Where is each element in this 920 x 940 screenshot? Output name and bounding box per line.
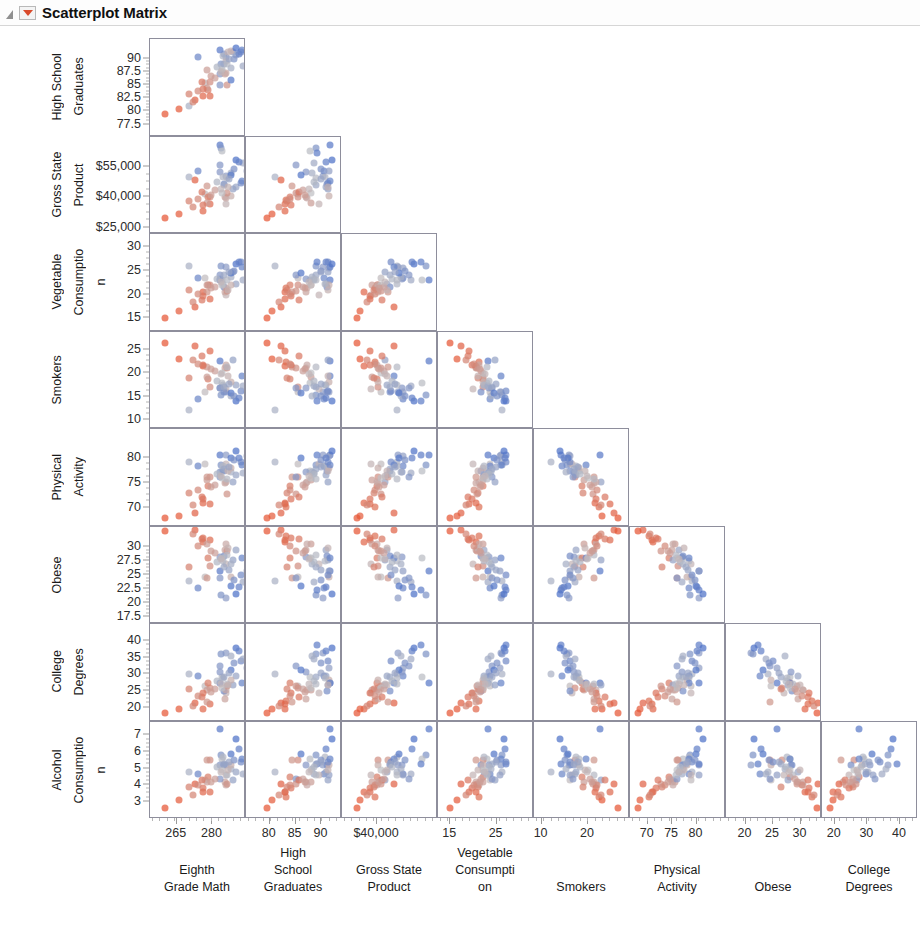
- scatter-cell-alcohol_consumption-vs-gross_state_product[interactable]: [341, 721, 437, 819]
- data-point[interactable]: [418, 397, 425, 404]
- data-point[interactable]: [755, 760, 762, 767]
- data-point[interactable]: [426, 451, 433, 458]
- data-point[interactable]: [272, 671, 279, 678]
- scatter-cell-physical_activity-vs-high_school_graduates[interactable]: [245, 428, 341, 526]
- data-point[interactable]: [185, 407, 192, 414]
- data-point[interactable]: [323, 454, 330, 461]
- data-point[interactable]: [492, 670, 499, 677]
- data-point[interactable]: [501, 583, 508, 590]
- data-point[interactable]: [208, 72, 215, 79]
- data-point[interactable]: [301, 484, 308, 491]
- data-point[interactable]: [563, 592, 570, 599]
- data-point[interactable]: [272, 768, 279, 775]
- data-point[interactable]: [447, 527, 454, 534]
- data-point[interactable]: [367, 460, 374, 467]
- scatter-cell-smokers-vs-vegetable_consumption[interactable]: [437, 331, 533, 429]
- data-point[interactable]: [217, 650, 224, 657]
- data-point[interactable]: [185, 577, 192, 584]
- data-point[interactable]: [149, 533, 150, 540]
- data-point[interactable]: [750, 752, 757, 759]
- data-point[interactable]: [484, 725, 491, 732]
- data-point[interactable]: [580, 489, 587, 496]
- data-point[interactable]: [278, 177, 285, 184]
- data-point[interactable]: [696, 725, 703, 732]
- data-point[interactable]: [806, 690, 813, 697]
- data-point[interactable]: [218, 68, 225, 75]
- data-point[interactable]: [594, 693, 601, 700]
- data-point[interactable]: [492, 356, 499, 363]
- data-point[interactable]: [422, 650, 429, 657]
- data-point[interactable]: [311, 578, 318, 585]
- data-point[interactable]: [328, 591, 335, 598]
- data-point[interactable]: [230, 576, 237, 583]
- data-point[interactable]: [272, 459, 279, 466]
- data-point[interactable]: [305, 186, 312, 193]
- data-point[interactable]: [598, 702, 605, 709]
- data-point[interactable]: [691, 660, 698, 667]
- data-point[interactable]: [195, 782, 202, 789]
- data-point[interactable]: [199, 189, 206, 196]
- data-point[interactable]: [757, 672, 764, 679]
- data-point[interactable]: [482, 371, 489, 378]
- data-point[interactable]: [493, 660, 500, 667]
- data-point[interactable]: [476, 548, 483, 555]
- data-point[interactable]: [590, 575, 597, 582]
- data-point[interactable]: [767, 775, 774, 782]
- data-point[interactable]: [890, 735, 897, 742]
- data-point[interactable]: [195, 693, 202, 700]
- data-point[interactable]: [388, 658, 395, 665]
- data-point[interactable]: [402, 660, 409, 667]
- data-point[interactable]: [500, 735, 507, 742]
- data-point[interactable]: [379, 352, 386, 359]
- data-point[interactable]: [318, 176, 325, 183]
- data-point[interactable]: [759, 666, 766, 673]
- data-point[interactable]: [426, 357, 433, 364]
- data-point[interactable]: [149, 196, 150, 203]
- data-point[interactable]: [463, 792, 470, 799]
- data-point[interactable]: [574, 463, 581, 470]
- red-dropdown-triangle-icon[interactable]: [19, 6, 36, 20]
- data-point[interactable]: [235, 745, 242, 752]
- data-point[interactable]: [175, 705, 182, 712]
- data-point[interactable]: [680, 688, 687, 695]
- data-point[interactable]: [297, 582, 304, 589]
- data-point[interactable]: [596, 725, 603, 732]
- data-point[interactable]: [295, 694, 302, 701]
- data-point[interactable]: [286, 290, 293, 297]
- data-point[interactable]: [295, 296, 302, 303]
- data-point[interactable]: [328, 735, 335, 742]
- data-point[interactable]: [647, 530, 654, 537]
- data-point[interactable]: [326, 193, 333, 200]
- data-point[interactable]: [286, 196, 293, 203]
- data-point[interactable]: [185, 459, 192, 466]
- data-point[interactable]: [224, 682, 231, 689]
- data-point[interactable]: [195, 168, 202, 175]
- data-point[interactable]: [492, 566, 499, 573]
- data-point[interactable]: [235, 583, 242, 590]
- data-point[interactable]: [206, 563, 213, 570]
- data-point[interactable]: [268, 526, 275, 527]
- data-point[interactable]: [590, 757, 597, 764]
- data-point[interactable]: [297, 750, 304, 757]
- data-point[interactable]: [185, 197, 192, 204]
- data-point[interactable]: [577, 678, 584, 685]
- scatter-cell-gross_state_product-vs-eighth_grade_math[interactable]: [149, 136, 245, 234]
- data-point[interactable]: [229, 356, 236, 363]
- data-point[interactable]: [693, 583, 700, 590]
- scatter-cell-smokers-vs-gross_state_product[interactable]: [341, 331, 437, 429]
- data-point[interactable]: [379, 494, 386, 501]
- data-point[interactable]: [793, 688, 800, 695]
- data-point[interactable]: [292, 683, 299, 690]
- data-point[interactable]: [814, 780, 821, 787]
- data-point[interactable]: [391, 509, 398, 516]
- data-point[interactable]: [492, 463, 499, 470]
- data-point[interactable]: [562, 660, 569, 667]
- data-point[interactable]: [288, 496, 295, 503]
- data-point[interactable]: [781, 652, 788, 659]
- data-point[interactable]: [879, 770, 886, 777]
- data-point[interactable]: [292, 575, 299, 582]
- data-point[interactable]: [195, 396, 202, 403]
- data-point[interactable]: [190, 792, 197, 799]
- data-point[interactable]: [202, 274, 209, 281]
- data-point[interactable]: [286, 486, 293, 493]
